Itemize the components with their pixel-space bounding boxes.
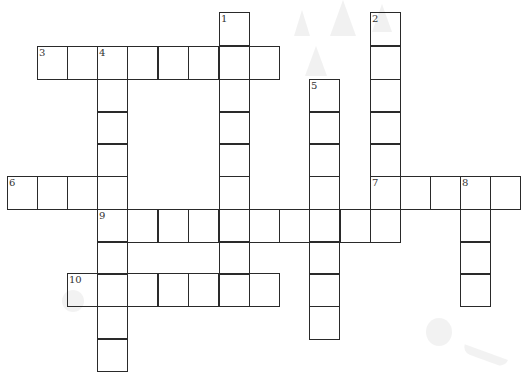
clue-number: 1 — [221, 13, 227, 25]
crossword-cell-r10-c3[interactable] — [97, 338, 128, 372]
crossword-cell-r6-c11[interactable] — [340, 209, 371, 243]
crossword-cell-r5-c15[interactable]: 8 — [460, 176, 491, 210]
crossword-cell-r5-c3[interactable] — [97, 176, 128, 210]
crossword-cell-r1-c6[interactable] — [188, 46, 219, 80]
crossword-cell-r1-c1[interactable]: 3 — [37, 46, 68, 80]
clue-number: 4 — [99, 47, 105, 59]
crossword-cell-r6-c15[interactable] — [460, 209, 491, 243]
crossword-cell-r5-c14[interactable] — [430, 176, 461, 210]
crossword-cell-r5-c1[interactable] — [37, 176, 68, 210]
background-tree-decoration — [294, 10, 310, 36]
crossword-cell-r1-c2[interactable] — [67, 46, 98, 80]
crossword-cell-r0-c12[interactable]: 2 — [370, 12, 401, 46]
crossword-cell-r8-c5[interactable] — [158, 273, 189, 307]
crossword-cell-r1-c4[interactable] — [127, 46, 158, 80]
crossword-cell-r4-c10[interactable] — [309, 143, 340, 177]
crossword-cell-r4-c7[interactable] — [219, 143, 250, 177]
crossword-cell-r5-c13[interactable] — [400, 176, 431, 210]
crossword-cell-r6-c12[interactable] — [370, 209, 401, 243]
crossword-cell-r1-c5[interactable] — [158, 46, 189, 80]
crossword-cell-r8-c4[interactable] — [127, 273, 158, 307]
crossword-cell-r4-c3[interactable] — [97, 143, 128, 177]
crossword-cell-r2-c12[interactable] — [370, 79, 401, 113]
crossword-cell-r5-c16[interactable] — [490, 176, 521, 210]
crossword-cell-r5-c0[interactable]: 6 — [7, 176, 38, 210]
crossword-cell-r7-c3[interactable] — [97, 241, 128, 275]
crossword-cell-r8-c6[interactable] — [188, 273, 219, 307]
crossword-cell-r1-c7[interactable] — [219, 46, 250, 80]
crossword-cell-r5-c7[interactable] — [219, 176, 250, 210]
crossword-cell-r4-c12[interactable] — [370, 143, 401, 177]
crossword-cell-r1-c3[interactable]: 4 — [97, 46, 128, 80]
crossword-cell-r8-c10[interactable] — [309, 273, 340, 307]
crossword-cell-r5-c12[interactable]: 7 — [370, 176, 401, 210]
crossword-cell-r5-c10[interactable] — [309, 176, 340, 210]
crossword-cell-r5-c2[interactable] — [67, 176, 98, 210]
crossword-cell-r7-c10[interactable] — [309, 241, 340, 275]
clue-number: 3 — [39, 47, 45, 59]
background-tree-decoration — [305, 46, 327, 76]
crossword-cell-r1-c12[interactable] — [370, 46, 401, 80]
crossword-cell-r9-c3[interactable] — [97, 306, 128, 340]
crossword-cell-r6-c9[interactable] — [279, 209, 310, 243]
crossword-cell-r6-c10[interactable] — [309, 209, 340, 243]
crossword-cell-r8-c3[interactable] — [97, 273, 128, 307]
crossword-cell-r6-c6[interactable] — [188, 209, 219, 243]
crossword-cell-r3-c12[interactable] — [370, 111, 401, 145]
background-tree-decoration — [330, 0, 356, 36]
clue-number: 2 — [372, 13, 378, 25]
crossword-cell-r3-c10[interactable] — [309, 111, 340, 145]
crossword-cell-r2-c7[interactable] — [219, 79, 250, 113]
clue-number: 9 — [99, 210, 105, 222]
crossword-cell-r6-c7[interactable] — [219, 209, 250, 243]
crossword-board: 12734956810 — [0, 0, 524, 382]
crossword-cell-r0-c7[interactable]: 1 — [219, 12, 250, 46]
crossword-cell-r9-c10[interactable] — [309, 306, 340, 340]
clue-number: 8 — [462, 177, 468, 189]
clue-number: 6 — [9, 177, 15, 189]
crossword-cell-r2-c10[interactable]: 5 — [309, 79, 340, 113]
crossword-cell-r6-c5[interactable] — [158, 209, 189, 243]
crossword-cell-r8-c15[interactable] — [460, 273, 491, 307]
clue-number: 5 — [311, 80, 317, 92]
background-swoosh-decoration — [462, 344, 508, 367]
clue-number: 10 — [69, 274, 82, 286]
crossword-cell-r8-c2[interactable]: 10 — [67, 273, 98, 307]
background-ornament-decoration — [426, 318, 452, 346]
crossword-cell-r3-c7[interactable] — [219, 111, 250, 145]
clue-number: 7 — [372, 177, 378, 189]
crossword-cell-r2-c3[interactable] — [97, 79, 128, 113]
crossword-cell-r6-c3[interactable]: 9 — [97, 209, 128, 243]
crossword-cell-r1-c8[interactable] — [249, 46, 280, 80]
crossword-cell-r8-c8[interactable] — [249, 273, 280, 307]
crossword-cell-r8-c7[interactable] — [219, 273, 250, 307]
crossword-cell-r7-c7[interactable] — [219, 241, 250, 275]
crossword-cell-r6-c8[interactable] — [249, 209, 280, 243]
crossword-cell-r3-c3[interactable] — [97, 111, 128, 145]
crossword-cell-r6-c4[interactable] — [127, 209, 158, 243]
crossword-cell-r7-c15[interactable] — [460, 241, 491, 275]
